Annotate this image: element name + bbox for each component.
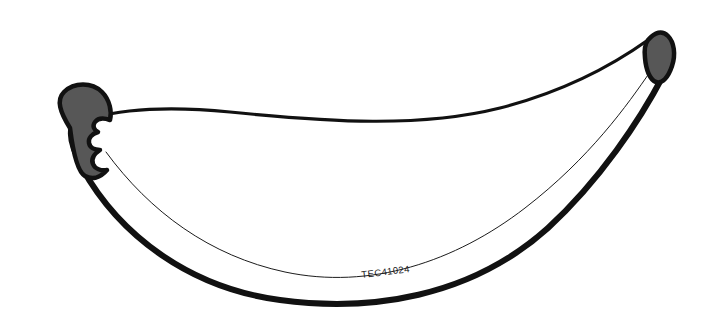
- banana-right-tip: [645, 33, 674, 83]
- illustration-canvas: TEC41024: [0, 0, 705, 319]
- banana-illustration: TEC41024: [0, 0, 705, 319]
